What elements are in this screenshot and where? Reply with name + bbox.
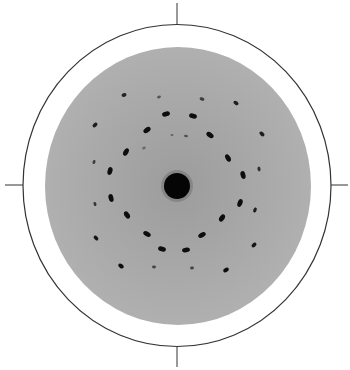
central-beam-spot (161, 170, 193, 202)
central-beam (164, 173, 190, 199)
diffraction-pattern-figure (0, 0, 350, 370)
diffraction-spot (171, 134, 174, 136)
diffraction-spot (152, 266, 156, 269)
